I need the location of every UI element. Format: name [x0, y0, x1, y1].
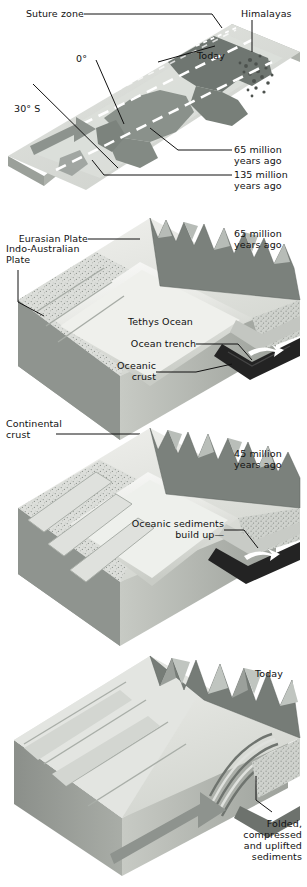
label-himalayas: Himalayas	[241, 8, 292, 19]
label-oceanic-crust: Oceanic crust	[110, 360, 156, 382]
geology-illustration	[0, 0, 307, 887]
label-indo-australian-plate: Indo-Australian Plate	[6, 243, 80, 265]
label-65ma-map: 65 million years ago	[234, 144, 282, 166]
label-age-today: Today	[255, 668, 283, 679]
label-age-45ma: 45 million years ago	[234, 448, 282, 470]
label-135ma-map: 135 million years ago	[234, 169, 288, 191]
label-folded-sediments: Folded, compressed and uplifted sediment…	[198, 818, 302, 862]
label-suture-zone: Suture zone	[8, 8, 84, 19]
label-continental-crust: Continental crust	[6, 418, 62, 440]
label-age-65ma: 65 million years ago	[234, 228, 282, 250]
label-oceanic-sediments: Oceanic sediments build up—	[110, 518, 224, 540]
label-tethys-ocean: Tethys Ocean	[128, 316, 193, 327]
label-30-south: 30° S	[14, 103, 40, 114]
label-today-map: Today	[197, 50, 225, 61]
label-equator: 0°	[76, 53, 87, 64]
figure-root: Suture zone Himalayas Today 0° 30° S 65 …	[0, 0, 307, 887]
label-ocean-trench: Ocean trench	[110, 338, 196, 349]
